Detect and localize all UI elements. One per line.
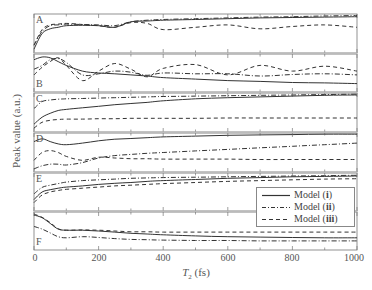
- series-model-ii-line: [34, 58, 357, 76]
- series-model-ii-line: [34, 16, 357, 46]
- legend-item-model-ii: Model (ii): [257, 201, 354, 213]
- panel-label-c: C: [36, 93, 43, 104]
- legend: Model (i) Model (ii) Model (iii): [256, 187, 355, 227]
- series-model-ii-line: [34, 226, 357, 241]
- dash-dot-line-icon: [262, 206, 290, 209]
- series-model-ii-line: [34, 143, 357, 169]
- series-model-i-line: [34, 134, 357, 145]
- x-axis-unit: (fs): [192, 266, 210, 278]
- figure-canvas: [0, 0, 372, 290]
- panel-label-b: B: [36, 78, 43, 89]
- legend-item-model-i: Model (i): [257, 189, 354, 201]
- series-model-iii-line: [34, 118, 357, 128]
- x-axis-label: T2 (fs): [182, 266, 210, 281]
- panel-label-f: F: [36, 236, 42, 247]
- legend-item-model-iii: Model (iii): [257, 213, 354, 225]
- x-tick-label: 200: [92, 252, 107, 263]
- dashed-line-icon: [262, 218, 290, 221]
- panel-frame-d: [34, 133, 357, 172]
- series-model-i-line: [34, 57, 357, 84]
- y-axis-label: Peak value (a.u.): [10, 94, 22, 168]
- series-model-i-line: [34, 95, 357, 124]
- panel-label-d: D: [36, 133, 43, 144]
- series-model-ii-line: [34, 94, 357, 108]
- series-model-iii-line: [34, 58, 357, 81]
- x-tick-label: 800: [285, 252, 300, 263]
- panel-label-a: A: [36, 14, 43, 25]
- solid-line-icon: [262, 194, 290, 197]
- panel-frame-b: [34, 54, 357, 92]
- x-tick-label: 600: [221, 252, 236, 263]
- x-tick-label: 1000: [344, 252, 364, 263]
- series-model-iii-line: [34, 151, 357, 161]
- x-tick-label: 400: [156, 252, 171, 263]
- series-model-i-line: [34, 17, 357, 49]
- panel-label-e: E: [36, 173, 42, 184]
- x-tick-label: 0: [33, 252, 38, 263]
